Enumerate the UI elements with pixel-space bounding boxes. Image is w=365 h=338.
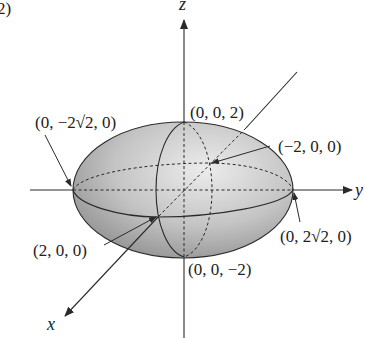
leader-pos-y [294,193,300,222]
label-pos-x: (2, 0, 0) [33,241,87,260]
label-pos-z: (0, 0, 2) [190,103,244,122]
label-neg-z: (0, 0, −2) [188,260,251,279]
label-neg-x: (−2, 0, 0) [278,137,341,156]
ellipsoid-diagram: 2) z y x [0,0,365,338]
leader-neg-y [45,135,71,186]
x-axis-label: x [46,314,55,334]
label-neg-y: (0, −2√2, 0) [35,113,116,132]
part-label: 2) [0,0,11,18]
label-pos-y: (0, 2√2, 0) [280,227,352,246]
x-axis-back [246,72,297,128]
y-axis-label: y [353,180,363,200]
z-axis-label: z [178,0,186,14]
